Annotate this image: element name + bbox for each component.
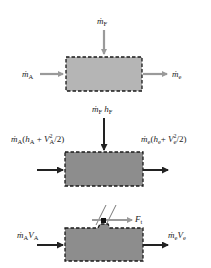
control-volume-box-with-mount bbox=[65, 224, 143, 261]
control-volume-diagrams: ṁF ṁA ṁe ṁFhF ṁA(hA + V2A/2) ṁe(he+ V2e/… bbox=[0, 0, 211, 268]
thrust-force-label: Ft bbox=[134, 214, 143, 225]
mount-strut-icon bbox=[106, 205, 116, 225]
control-volume-box bbox=[65, 152, 143, 186]
exit-energy-label: ṁe(he+ V2e/2) bbox=[141, 133, 187, 145]
fuel-enthalpy-label: ṁFhF bbox=[92, 104, 113, 115]
panel-mass-balance: ṁF ṁA ṁe bbox=[22, 16, 182, 91]
mount-block-icon bbox=[101, 218, 106, 223]
panel-momentum-balance: Ft ṁAVA ṁeVe bbox=[17, 205, 186, 261]
exit-mass-flow-label: ṁe bbox=[172, 69, 182, 80]
exit-momentum-label: ṁeVe bbox=[168, 230, 186, 241]
air-momentum-label: ṁAVA bbox=[17, 230, 39, 241]
panel-energy-balance: ṁFhF ṁA(hA + V2A/2) ṁe(he+ V2e/2) bbox=[11, 104, 187, 186]
air-mass-flow-label: ṁA bbox=[22, 69, 34, 80]
air-energy-label: ṁA(hA + V2A/2) bbox=[11, 133, 64, 145]
fuel-mass-flow-label: ṁF bbox=[97, 16, 108, 27]
control-volume-box bbox=[66, 57, 142, 91]
